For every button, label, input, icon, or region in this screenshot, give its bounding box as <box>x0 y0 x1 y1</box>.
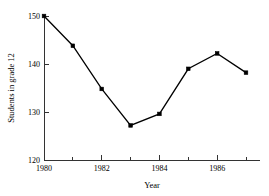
chart-canvas: 120130140150 1980198219841986 Year Stude… <box>0 0 269 196</box>
data-point-1985 <box>186 67 190 71</box>
x-axis-tick-labels: 1980198219841986 <box>36 164 225 173</box>
data-point-1981 <box>71 44 75 48</box>
data-point-1984 <box>158 112 162 116</box>
y-axis-title: Students in grade 12 <box>6 53 16 123</box>
x-axis-title: Year <box>144 180 160 190</box>
data-point-1987 <box>244 71 248 75</box>
y-tick-label-140: 140 <box>28 60 40 69</box>
x-tick-label-1986: 1986 <box>209 164 225 173</box>
axes-group <box>44 16 260 160</box>
data-point-1986 <box>215 52 219 56</box>
data-line-series-1 <box>44 16 246 125</box>
data-point-1982 <box>100 87 104 91</box>
x-tick-label-1980: 1980 <box>36 164 52 173</box>
data-markers-series-1 <box>42 14 248 127</box>
data-point-1980 <box>42 14 46 18</box>
y-tick-label-130: 130 <box>28 108 40 117</box>
line-chart: 120130140150 1980198219841986 Year Stude… <box>0 0 269 196</box>
y-axis-ticks <box>44 16 49 160</box>
x-tick-label-1982: 1982 <box>94 164 110 173</box>
data-point-1983 <box>129 124 133 128</box>
y-tick-label-150: 150 <box>28 12 40 21</box>
x-tick-label-1984: 1984 <box>151 164 167 173</box>
y-axis-tick-labels: 120130140150 <box>28 12 40 165</box>
